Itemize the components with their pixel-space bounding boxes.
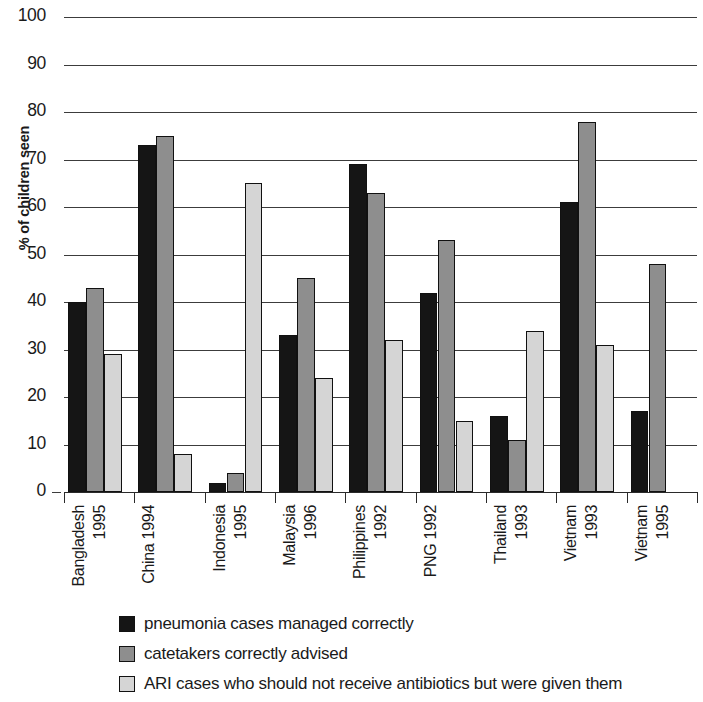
chart-legend: pneumonia cases managed correctlycatetak…: [119, 609, 703, 699]
category-label-line: Malaysia: [281, 505, 297, 601]
bar: [490, 416, 508, 492]
bar: [245, 183, 263, 492]
y-axis-tick-label: 90: [0, 53, 46, 74]
bar: [367, 193, 385, 492]
bar: [385, 340, 403, 492]
y-axis-tick-label: 0: [0, 480, 46, 501]
legend-swatch-icon: [119, 646, 135, 662]
bar: [526, 331, 544, 493]
bar: [297, 278, 315, 492]
y-axis-tick-label: 70: [0, 148, 46, 169]
x-axis-tick-mark: [697, 492, 698, 503]
x-axis-tick-mark: [64, 492, 65, 503]
category-label-line: Philippines: [351, 505, 367, 601]
category-label-line: 1995: [232, 505, 248, 601]
bar: [438, 240, 456, 492]
y-axis-tick-label: 40: [0, 290, 46, 311]
legend-item: catetakers correctly advised: [119, 639, 703, 669]
category-label-line: 1995: [654, 505, 670, 601]
bar: [104, 354, 122, 492]
legend-item: ARI cases who should not receive antibio…: [119, 669, 703, 699]
bar: [315, 378, 333, 492]
x-axis-tick-mark: [486, 492, 487, 503]
legend-label: pneumonia cases managed correctly: [144, 614, 414, 634]
legend-swatch-icon: [119, 676, 135, 692]
bar: [279, 335, 297, 492]
x-axis-line: [64, 492, 697, 493]
gridline: [64, 65, 697, 66]
y-axis-tick-label: 20: [0, 385, 46, 406]
bar: [649, 264, 667, 492]
category-label-line: 1996: [302, 505, 318, 601]
category-label-line: 1993: [513, 505, 529, 601]
gridline: [64, 112, 697, 113]
category-label-line: Thailand: [492, 505, 508, 601]
y-axis-tick-label: 80: [0, 100, 46, 121]
category-label-line: Bangladesh: [70, 505, 86, 601]
bar: [349, 164, 367, 492]
y-axis-tick-mark: [52, 492, 61, 493]
bar: [227, 473, 245, 492]
y-axis-tick-label: 100: [0, 5, 46, 26]
bar: [631, 411, 649, 492]
y-axis-tick-label: 30: [0, 338, 46, 359]
bar: [508, 440, 526, 492]
legend-swatch-icon: [119, 616, 135, 632]
bar: [209, 483, 227, 493]
category-label-line: 1995: [91, 505, 107, 601]
bar: [560, 202, 578, 492]
x-axis-tick-mark: [627, 492, 628, 503]
x-axis-tick-mark: [556, 492, 557, 503]
category-label-line: PNG 1992: [422, 505, 438, 601]
category-label-line: 1992: [372, 505, 388, 601]
bar: [156, 136, 174, 492]
bar: [420, 293, 438, 493]
bar: [456, 421, 474, 492]
x-axis-tick-mark: [205, 492, 206, 503]
gridline: [64, 17, 697, 18]
x-axis-tick-mark: [416, 492, 417, 503]
bar: [68, 302, 86, 492]
category-label-line: Vietnam: [633, 505, 649, 601]
y-axis-tick-label: 50: [0, 243, 46, 264]
y-axis-tick-label: 60: [0, 195, 46, 216]
plot-area: [64, 17, 697, 492]
category-label-line: 1993: [583, 505, 599, 601]
x-axis-tick-mark: [345, 492, 346, 503]
x-axis-tick-mark: [275, 492, 276, 503]
bar: [138, 145, 156, 492]
legend-label: ARI cases who should not receive antibio…: [144, 674, 622, 694]
bar: [86, 288, 104, 492]
category-label-line: Indonesia: [211, 505, 227, 601]
legend-item: pneumonia cases managed correctly: [119, 609, 703, 639]
bar: [174, 454, 192, 492]
legend-label: catetakers correctly advised: [144, 644, 348, 664]
bar-chart: % of children seen 010203040506070809010…: [0, 0, 703, 702]
category-label-line: China 1994: [140, 505, 156, 601]
x-axis-tick-mark: [134, 492, 135, 503]
bar: [578, 122, 596, 493]
category-label-line: Vietnam: [562, 505, 578, 601]
y-axis-tick-label: 10: [0, 433, 46, 454]
bar: [596, 345, 614, 492]
